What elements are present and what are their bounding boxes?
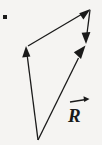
corner-dot-marker xyxy=(3,15,7,19)
resultant-vector-label: R xyxy=(68,106,81,125)
vector-diagram-figure: R xyxy=(0,0,102,145)
vector-diagram-canvas xyxy=(0,0,102,145)
diagram-background xyxy=(0,0,102,145)
